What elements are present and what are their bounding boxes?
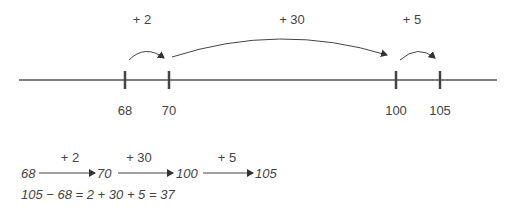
- tick-label-105: 105: [429, 103, 451, 118]
- jump-arc-30: [172, 39, 387, 57]
- jump-label-5: + 5: [403, 12, 421, 27]
- chain-step-label-2: + 30: [126, 150, 152, 165]
- equation: 105 − 68 = 2 + 30 + 5 = 37: [21, 187, 175, 202]
- jump-arc-5: [400, 51, 435, 60]
- chain-step-label-3: + 5: [218, 150, 236, 165]
- chain-step-label-1: + 2: [61, 150, 79, 165]
- chain-node-70: 70: [97, 166, 111, 181]
- jump-arc-2: [129, 51, 164, 60]
- chain-node-105: 105: [255, 166, 277, 181]
- jump-label-30: + 30: [279, 12, 305, 27]
- tick-label-68: 68: [118, 103, 132, 118]
- jump-label-2: + 2: [133, 12, 151, 27]
- tick-label-100: 100: [385, 103, 407, 118]
- chain-node-68: 68: [21, 166, 35, 181]
- tick-label-70: 70: [162, 103, 176, 118]
- chain-node-100: 100: [176, 166, 198, 181]
